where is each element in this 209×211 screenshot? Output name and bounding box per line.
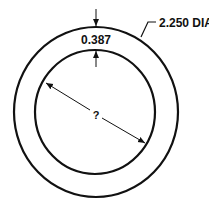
inner-diameter-line-a	[46, 83, 90, 110]
wall-thickness-label: 0.387	[81, 33, 111, 47]
inner-diameter-label: ?	[93, 109, 100, 121]
outer-diameter-leader	[141, 22, 156, 37]
inner-diameter-line-b	[102, 118, 145, 143]
ring-drawing: 0.387 2.250 DIA ?	[0, 0, 209, 211]
outer-diameter-label: 2.250 DIA	[159, 16, 209, 30]
